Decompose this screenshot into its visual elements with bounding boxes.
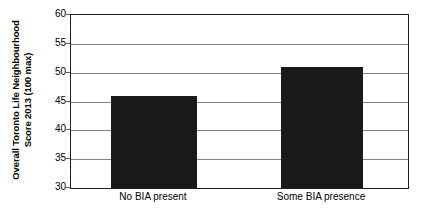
- y-axis-title-line-1: Overall Toronto Life Neighbourhood: [10, 20, 22, 180]
- plot-area: [70, 14, 409, 189]
- bar: [111, 96, 197, 188]
- y-axis-title-line-2: Score 2013 (100 max): [22, 20, 34, 180]
- y-tick-label: 60: [40, 9, 66, 19]
- y-tick-label: 45: [40, 96, 66, 106]
- x-axis-category-label: No BIA present: [119, 190, 186, 203]
- y-tick-label: 50: [40, 67, 66, 77]
- x-axis-category-label: Some BIA presence: [277, 190, 365, 203]
- y-tick-label: 40: [40, 124, 66, 134]
- y-tick-label: 35: [40, 153, 66, 163]
- y-tick-label: 55: [40, 38, 66, 48]
- x-axis-labels: No BIA presentSome BIA presence: [70, 190, 409, 210]
- y-tick-label: 30: [40, 182, 66, 192]
- y-axis-ticks: 60555045403530: [36, 14, 66, 187]
- bar: [281, 67, 363, 188]
- bar-chart: Overall Toronto Life Neighbourhood Score…: [0, 0, 423, 216]
- gridline: [71, 44, 408, 45]
